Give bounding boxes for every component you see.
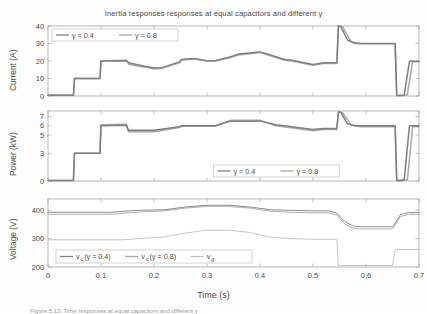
legend-label: γ = 0.8 [135,31,157,40]
legend-label-sub: g [211,256,214,262]
x-tick-label: 0.7 [414,271,424,280]
current-subplot: Current (A) 010203040γ = 0.4γ = 0.8 [0,22,427,112]
x-tick-label: 0.1 [96,271,106,280]
x-tick-label: 0.6 [361,271,371,280]
voltage-y-axis-label: Voltage (V) [8,204,20,274]
legend: γ = 0.4γ = 0.8 [214,165,340,177]
y-tick-label: 30 [36,39,44,48]
legend: vc (γ = 0.4)vc (γ = 0.8)vg [56,250,252,263]
x-tick-label: 0.4 [255,271,265,280]
legend: γ = 0.4γ = 0.8 [52,29,178,41]
voltage-subplot: Voltage (V) 00.10.20.30.40.50.60.7200300… [0,196,427,282]
legend-label: γ = 0.8 [297,167,319,176]
y-tick-label: 7 [40,112,44,121]
y-tick-label: 5 [40,131,44,140]
x-tick-label: 0 [46,271,50,280]
legend-label-sub: c [81,256,84,262]
power-subplot: Power (kW) 03567γ = 0.4γ = 0.8 [0,108,427,196]
y-tick-label: 0 [40,177,44,186]
legend-label-rest: (γ = 0.4) [84,252,111,261]
y-tick-label: 300 [32,234,44,243]
legend-label: γ = 0.4 [72,31,94,40]
y-tick-label: 20 [36,57,44,66]
legend-label: v [207,252,211,261]
voltage-plot-svg: 00.10.20.30.40.50.60.7200300400vc (γ = 0… [0,196,427,282]
y-tick-label: 40 [36,22,44,31]
x-tick-label: 0.5 [308,271,318,280]
x-tick-label: 0.3 [202,271,212,280]
legend-box [214,165,340,177]
legend-label-sub: c [146,256,149,262]
power-y-axis-label: Power (kW) [8,118,20,190]
y-tick-label: 400 [32,206,44,215]
power-plot-svg: 03567γ = 0.4γ = 0.8 [0,108,427,196]
current-plot-svg: 010203040γ = 0.4γ = 0.8 [0,22,427,112]
legend-label: v [141,252,145,261]
legend-label-rest: (γ = 0.8) [150,252,177,261]
y-tick-label: 6 [40,121,44,130]
y-tick-label: 10 [36,74,44,83]
legend-label: v [76,252,80,261]
legend-label: γ = 0.4 [234,167,256,176]
x-axis-label: Time (s) [0,290,427,300]
figure-title: Inertia responses responses at equal cap… [0,9,427,18]
y-tick-label: 3 [40,149,44,158]
y-tick-label: 0 [40,92,44,101]
figure-caption: Figure 5.13: Time responses at equal cap… [30,308,410,314]
y-tick-label: 200 [32,263,44,272]
current-y-axis-label: Current (A) [8,34,20,106]
legend-box [52,29,178,41]
x-tick-label: 0.2 [149,271,159,280]
